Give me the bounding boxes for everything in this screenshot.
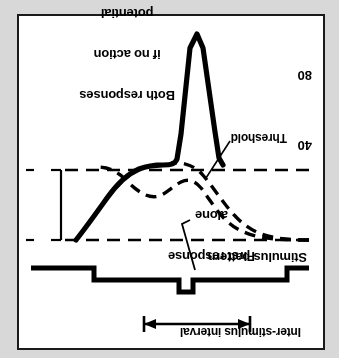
first-response-label-line2: alone xyxy=(168,208,255,222)
inter-stimulus-interval-label: Inter-stimulus interval xyxy=(180,325,301,338)
stimulus-pattern-label: Stimulus pattern xyxy=(208,250,307,264)
figure-root: Inter-stimulus interval First response a… xyxy=(0,0,339,358)
isi-arrowhead-right xyxy=(144,319,156,329)
both-responses-label-line2: if no action xyxy=(80,47,175,61)
both-responses-label-line3: potential xyxy=(80,6,175,20)
threshold-label: Threshold xyxy=(231,131,287,144)
both-responses-label-line1: Both responses xyxy=(80,88,175,102)
figure-plate: Inter-stimulus interval First response a… xyxy=(17,14,325,350)
axis-tick-label-80: 80 xyxy=(298,68,312,83)
figure-canvas: Inter-stimulus interval First response a… xyxy=(0,0,339,358)
axis-tick-label-40: 40 xyxy=(298,138,312,153)
both-responses-label: Both responses if no action potential xyxy=(80,0,175,129)
first-response-label: First response alone xyxy=(168,181,255,290)
